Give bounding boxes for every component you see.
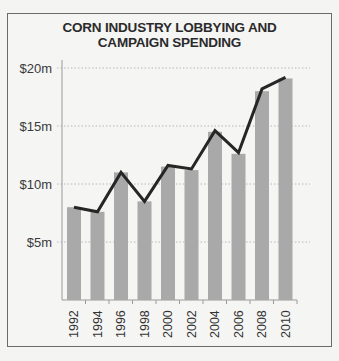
bar xyxy=(185,170,199,300)
chart-plot: $5m$10m$15m$20m1992199419961998200020022… xyxy=(0,0,339,361)
bar xyxy=(232,154,246,300)
x-tick-label: 2004 xyxy=(208,310,222,338)
y-tick-label: $5m xyxy=(27,235,52,250)
bar xyxy=(91,212,105,300)
x-tick-label: 1996 xyxy=(114,310,128,338)
y-tick-label: $15m xyxy=(19,119,52,134)
bar xyxy=(208,132,222,300)
x-tick-label: 2010 xyxy=(279,310,293,338)
x-tick-label: 2002 xyxy=(185,310,199,338)
bar xyxy=(161,167,175,300)
x-tick-label: 2006 xyxy=(232,310,246,338)
bar xyxy=(255,91,269,300)
bar xyxy=(279,78,293,300)
trend-line xyxy=(74,77,286,212)
bar xyxy=(67,207,81,300)
x-tick-label: 1994 xyxy=(91,310,105,338)
bar xyxy=(114,172,128,300)
x-tick-label: 2008 xyxy=(255,310,269,338)
y-tick-label: $20m xyxy=(19,61,52,76)
x-tick-label: 1998 xyxy=(138,310,152,338)
x-tick-label: 1992 xyxy=(67,310,81,338)
x-tick-label: 2000 xyxy=(161,310,175,338)
bar xyxy=(138,201,152,300)
y-tick-label: $10m xyxy=(19,177,52,192)
